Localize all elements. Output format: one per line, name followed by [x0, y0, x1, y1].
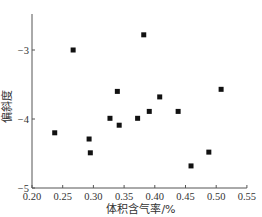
data-point-marker: [206, 150, 211, 155]
x-tick-label: 0.50: [207, 191, 225, 202]
data-point-marker: [141, 32, 146, 37]
data-point-marker: [115, 89, 120, 94]
x-tick-label: 0.30: [84, 191, 102, 202]
x-tick-label: 0.35: [115, 191, 133, 202]
data-point-marker: [147, 109, 152, 114]
y-axis-label: 偏斜度: [0, 90, 14, 123]
axes: 0.200.250.300.350.400.450.500.55−3−4−5: [18, 14, 256, 202]
data-point-marker: [52, 130, 57, 135]
data-point-marker: [219, 87, 224, 92]
data-points: [52, 32, 223, 168]
data-point-marker: [88, 150, 93, 155]
data-point-marker: [157, 94, 162, 99]
x-tick-label: 0.45: [176, 191, 194, 202]
data-point-marker: [87, 137, 92, 142]
y-tick-label: −5: [18, 183, 29, 194]
x-axis-label: 体积含气率/%: [106, 202, 175, 216]
data-point-marker: [107, 116, 112, 121]
data-point-marker: [117, 123, 122, 128]
x-tick-label: 0.55: [238, 191, 256, 202]
y-tick-label: −3: [18, 45, 29, 56]
data-point-marker: [135, 116, 140, 121]
data-point-marker: [71, 48, 76, 53]
data-point-marker: [189, 163, 194, 168]
data-point-marker: [176, 109, 181, 114]
x-tick-label: 0.25: [54, 191, 72, 202]
y-tick-label: −4: [18, 114, 30, 125]
x-tick-label: 0.40: [146, 191, 164, 202]
scatter-chart: 0.200.250.300.350.400.450.500.55−3−4−5 体…: [0, 0, 262, 217]
